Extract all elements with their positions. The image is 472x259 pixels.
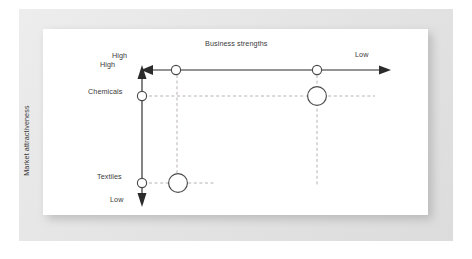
x-axis-right-arrowhead [379,66,391,75]
label-textiles: Textiles [97,173,122,180]
y-axis-title-market-attractiveness: Market attractiveness [23,96,30,186]
x-tick-marker-2 [312,65,321,74]
matrix-chart [43,29,428,215]
y-axis-bottom-arrowhead [138,193,147,207]
y-axis-top-arrowhead [138,65,147,79]
y-tick-marker-chemicals [137,91,146,100]
label-chemicals: Chemicals [88,88,122,95]
label-high-left: High [100,61,115,68]
label-low-right: Low [355,51,369,58]
bubble-textiles [169,174,188,193]
chart-title-business-strengths: Business strengths [205,40,268,47]
label-low-bottom: Low [110,196,124,203]
label-high-top: High [112,52,127,59]
y-tick-marker-textiles [137,178,146,187]
bubble-chemicals [308,87,327,106]
figure-root: Business strengths Market attractiveness… [0,0,472,259]
x-tick-marker-1 [171,65,180,74]
